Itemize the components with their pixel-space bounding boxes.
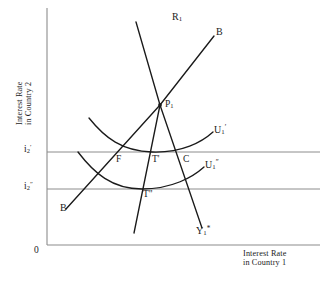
y1-star-line [160,105,202,228]
u1-prime-label: U1′ [214,125,226,136]
tick-i2-prime-mark: ′ [30,143,31,150]
r1-label-sub: 1 [179,15,182,22]
p1-label-sub: 1 [170,102,173,109]
x-axis-title-line2: in Country 1 [243,259,287,268]
point-label-t-double-prime: T" [143,190,153,200]
y1-star-label-star: * [207,225,211,233]
tick-i2-double-prime-mark: ″ [30,180,33,187]
diagram-canvas [0,0,323,283]
origin-label: 0 [34,246,39,256]
y1-star-label: Y1* [196,226,210,237]
point-label-c: C [183,155,189,165]
r1-label-base: R [172,11,179,22]
tick-label-i2-double-prime: i2″ [24,182,32,192]
r1-line-label: R1 [172,12,182,23]
tick-label-i2-prime: i2′ [24,145,31,155]
u1-prime-label-mark: ′ [225,124,226,132]
bb-line [66,36,214,209]
interest-rate-diagram: Interest Rate in Country 2 Interest Rate… [0,0,323,283]
bb-line-label-bottom: B [60,203,67,214]
p1-point-marker [158,103,162,107]
bb-line-label-top: B [216,27,223,38]
u1-double-prime-label: U1″ [205,160,218,171]
y-axis-title: Interest Rate in Country 2 [16,81,33,125]
point-label-p1: P1 [165,100,174,110]
u1-double-prime-label-mark: ″ [216,159,219,167]
r1-line [134,22,160,233]
y-axis-title-line2: in Country 2 [25,81,34,125]
point-label-f: F [116,155,121,165]
point-label-t-prime: T' [152,155,160,165]
x-axis-title: Interest Rate in Country 1 [243,250,287,267]
